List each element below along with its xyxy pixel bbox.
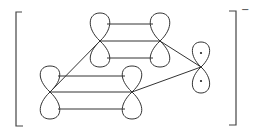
overlap-lines-bottom bbox=[50, 76, 132, 109]
electron-dot bbox=[200, 80, 202, 82]
orbital-top-right bbox=[150, 13, 170, 67]
right-bracket bbox=[229, 11, 236, 125]
charge-label: − bbox=[241, 4, 249, 15]
orbital-diagram: − bbox=[0, 0, 254, 131]
electron-dot bbox=[200, 52, 202, 54]
orbital-top-left bbox=[90, 13, 110, 67]
left-bracket bbox=[16, 12, 23, 126]
